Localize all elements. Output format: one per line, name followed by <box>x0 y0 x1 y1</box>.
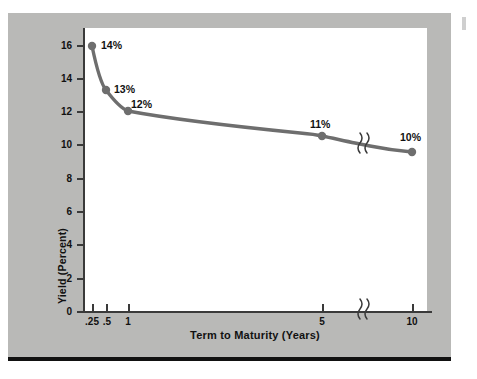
axis-break-squiggle-right <box>365 299 369 319</box>
axis-break-squiggle-left <box>358 299 362 319</box>
curve-break-squiggle-right <box>365 133 369 153</box>
data-label-12: 12% <box>131 98 152 110</box>
data-point-5 <box>408 148 416 156</box>
yield-curve-svg <box>0 0 477 379</box>
data-point-4 <box>318 132 326 140</box>
data-label-11: 11% <box>310 118 330 130</box>
figure-container: 16 14 12 10 8 6 4 2 0 .25 .5 1 5 10 Yiel… <box>0 0 477 379</box>
data-point-1 <box>88 42 96 50</box>
data-label-10: 10% <box>400 131 421 143</box>
data-label-13: 13% <box>114 83 135 95</box>
data-label-14: 14% <box>101 39 122 51</box>
data-point-2 <box>102 86 110 94</box>
